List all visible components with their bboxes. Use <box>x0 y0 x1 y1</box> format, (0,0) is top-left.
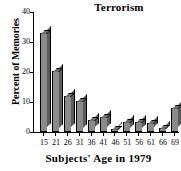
plot-area <box>33 12 178 132</box>
x-tick-mark <box>138 133 139 136</box>
bar <box>135 122 142 133</box>
x-tick-mark <box>79 133 80 136</box>
x-tick-mark <box>91 133 92 136</box>
bar-top-face <box>112 126 122 130</box>
y-tick-mark <box>30 102 33 103</box>
x-tick-mark <box>114 133 115 136</box>
x-tick-mark <box>103 133 104 136</box>
x-tick-mark <box>162 133 163 136</box>
y-tick-label: 40 <box>14 8 30 16</box>
bar <box>76 101 83 133</box>
x-tick-mark <box>126 133 127 136</box>
y-axis-tick-labels: 010203040 <box>14 0 30 171</box>
y-tick-mark <box>30 42 33 43</box>
y-tick-label: 0 <box>14 128 30 136</box>
y-tick-mark <box>30 132 33 133</box>
bar <box>52 71 59 133</box>
x-axis-tick-labels: 152126313641465156616669 <box>33 138 181 150</box>
y-axis-line <box>33 12 34 133</box>
bar-side-face <box>59 64 63 128</box>
x-tick-mark <box>43 133 44 136</box>
bar <box>123 122 130 133</box>
x-tick-mark <box>67 133 68 136</box>
y-tick-mark <box>30 72 33 73</box>
x-axis-label: Subjects' Age in 1979 <box>16 152 181 164</box>
y-tick-label: 30 <box>14 38 30 46</box>
bar-chart: Terrorism Percent of Memories 010203040 … <box>0 0 181 171</box>
x-tick-mark <box>55 133 56 136</box>
bar <box>88 120 95 132</box>
bar <box>159 128 166 133</box>
x-tick-mark <box>150 133 151 136</box>
bar-top-face <box>160 125 170 129</box>
y-tick-label: 20 <box>14 68 30 76</box>
x-tick-mark <box>174 133 175 136</box>
bar <box>40 33 47 132</box>
bar <box>64 96 71 132</box>
bar <box>100 117 107 132</box>
bar-side-face <box>47 26 51 127</box>
bar <box>111 129 118 132</box>
bar <box>171 108 178 132</box>
y-tick-label: 10 <box>14 98 30 106</box>
x-tick-label: 69 <box>168 138 181 147</box>
y-tick-mark <box>30 12 33 13</box>
bar <box>147 123 154 132</box>
bar-side-face <box>107 110 111 127</box>
